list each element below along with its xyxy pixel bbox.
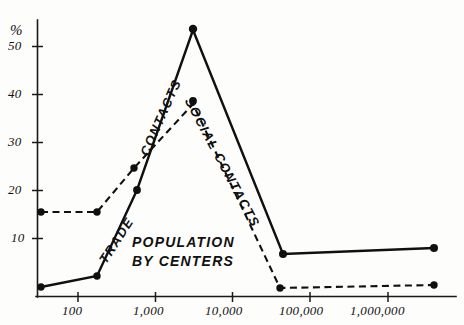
data-point — [130, 164, 137, 171]
annotation-line-1: POPULATION — [132, 233, 235, 252]
data-point — [93, 208, 100, 215]
data-point — [133, 186, 141, 194]
x-tick-label-1000000: 1,000,000 — [350, 303, 405, 319]
chart-annotation: POPULATION BY CENTERS — [132, 233, 235, 271]
x-tick-label-100: 100 — [62, 303, 82, 319]
data-point — [37, 208, 44, 215]
y-tick-label-50: 50 — [8, 38, 22, 54]
data-point — [37, 283, 44, 290]
data-point — [279, 250, 287, 258]
annotation-line-2: BY CENTERS — [132, 252, 235, 271]
data-point — [93, 272, 100, 279]
data-point — [189, 25, 197, 33]
x-tick-label-1000: 1,000 — [133, 303, 164, 319]
y-axis-unit-label: % — [10, 22, 23, 39]
x-tick-label-10000: 10,000 — [205, 303, 243, 319]
data-point — [430, 244, 438, 252]
chart-figure: % 50 40 30 20 10 100 1,000 10,000 100,00… — [0, 0, 464, 325]
data-point — [430, 281, 437, 288]
y-tick-label-30: 30 — [8, 134, 22, 150]
chart-plot-area — [0, 0, 464, 325]
series-line-contacts — [41, 30, 434, 287]
data-point — [276, 284, 283, 291]
y-tick-label-20: 20 — [8, 182, 22, 198]
y-tick-label-10: 10 — [11, 230, 25, 246]
x-tick-label-100000: 100,000 — [279, 303, 323, 319]
y-tick-label-40: 40 — [8, 86, 22, 102]
